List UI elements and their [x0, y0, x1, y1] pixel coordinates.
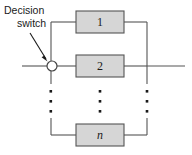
arrow-shaft [30, 33, 46, 59]
ellipsis-dot [146, 110, 149, 113]
block-1: 1 [76, 11, 124, 33]
block-n-label: n [97, 128, 103, 142]
arrow-head-icon [42, 55, 48, 61]
block-2-label: 2 [97, 59, 103, 73]
ellipsis-dot [146, 100, 149, 103]
block-n: n [76, 124, 124, 146]
ellipsis-dot [99, 100, 102, 103]
ellipsis-dot [99, 90, 102, 93]
decision-switch-arrow [30, 33, 48, 62]
diagram-canvas: 1 2 n [0, 0, 192, 155]
ellipsis-dot [99, 110, 102, 113]
right-bus-ellipsis [146, 90, 149, 113]
wiring-group [22, 22, 185, 135]
ellipsis-dot [146, 90, 149, 93]
callout-line-1: Decision [4, 4, 44, 16]
decision-switch-node [47, 61, 57, 71]
left-bus-ellipsis [50, 90, 53, 113]
ellipsis-dot [50, 90, 53, 93]
block-diagram-figure: 1 2 n [0, 0, 192, 155]
ellipsis-dot [50, 100, 53, 103]
ellipsis-dot [50, 110, 53, 113]
block-1-label: 1 [97, 15, 103, 29]
callout-line-2: switch [17, 17, 46, 29]
center-ellipsis [99, 90, 102, 113]
decision-switch-callout: Decision switch [4, 4, 46, 29]
block-2: 2 [76, 55, 124, 77]
